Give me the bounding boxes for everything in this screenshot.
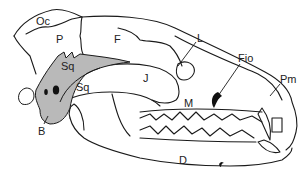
label-d: D (179, 155, 187, 166)
infraorbital-foramen (212, 92, 222, 108)
label-f: F (114, 34, 121, 45)
label-pm: Pm (280, 74, 297, 85)
skull-diagram (0, 0, 303, 195)
frontal-line (118, 28, 182, 66)
label-l: L (197, 33, 203, 44)
occipital-back (14, 36, 36, 74)
label-m: M (184, 98, 193, 109)
auditory-opening (44, 89, 48, 95)
occipital-condyle (19, 88, 34, 105)
oc-suture (26, 17, 82, 34)
upper-tooth-row (140, 112, 262, 122)
leader-fio (218, 64, 240, 96)
mandible-ramus (69, 104, 84, 130)
leader-pm (270, 84, 280, 96)
tooth-row-outline (140, 109, 262, 142)
coronoid (112, 94, 130, 136)
external-acoustic-meatus (53, 86, 59, 95)
zygomatic-arch (90, 64, 179, 103)
pf-suture (80, 17, 83, 54)
label-oc: Oc (36, 16, 50, 27)
lower-tooth-row (140, 126, 254, 138)
lower-canine (258, 140, 280, 153)
nasal-line (175, 36, 282, 100)
label-p: P (56, 34, 63, 45)
label-b: B (38, 126, 45, 137)
label-sq-upper: Sq (61, 61, 74, 72)
label-j: J (143, 73, 149, 84)
label-fio: Fio (238, 53, 253, 64)
incisors (272, 118, 282, 132)
upper-canine (258, 108, 271, 140)
label-sq-lower: Sq (76, 82, 89, 93)
